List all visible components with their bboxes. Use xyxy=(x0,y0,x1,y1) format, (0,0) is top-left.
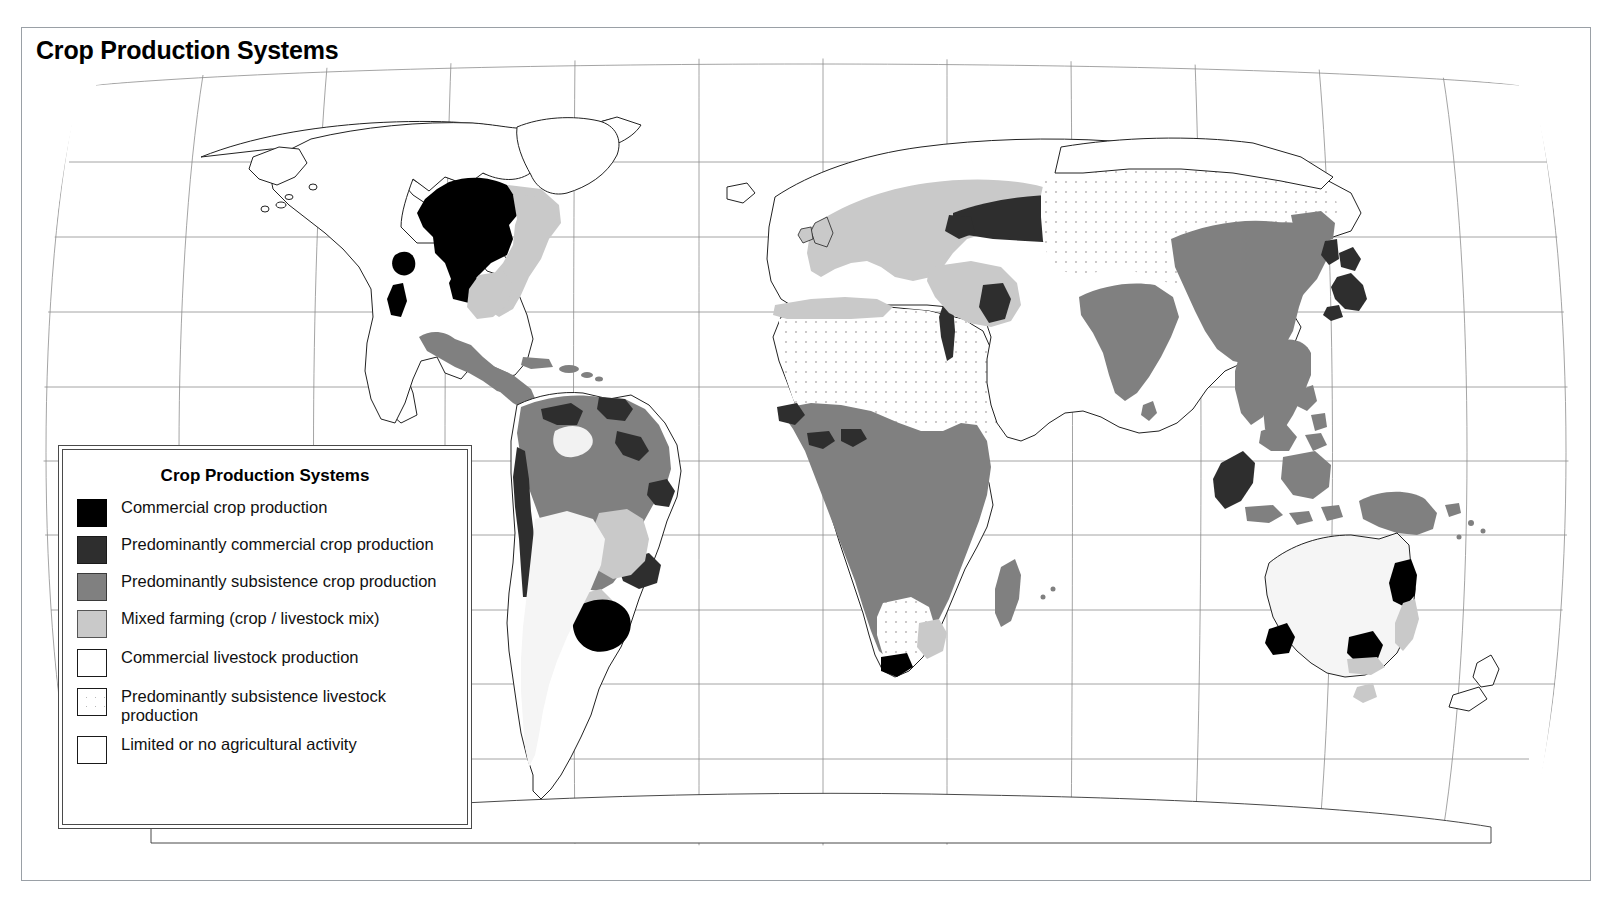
legend-item-commercial-crop[interactable]: Commercial crop production xyxy=(77,498,453,527)
legend-label: Predominantly subsistence livestock prod… xyxy=(121,687,451,725)
legend-item-commercial-livestock[interactable]: Commercial livestock production xyxy=(77,648,453,677)
legend-item-mixed-farming[interactable]: Mixed farming (crop / livestock mix) xyxy=(77,609,453,638)
region-australia xyxy=(1265,533,1415,677)
legend-label: Mixed farming (crop / livestock mix) xyxy=(121,609,380,628)
region-greenland xyxy=(517,118,619,194)
region-japan-honshu xyxy=(1331,273,1367,311)
region-new-zealand-south xyxy=(1449,687,1487,711)
legend-item-predominantly-subsistence-livestock[interactable]: Predominantly subsistence livestock prod… xyxy=(77,687,453,725)
map-legend-inner: Crop Production Systems Commercial crop … xyxy=(62,449,468,825)
region-sumatra-commercial xyxy=(1213,451,1255,509)
legend-label: Commercial crop production xyxy=(121,498,327,517)
legend-item-limited-or-no-agriculture[interactable]: Limited or no agricultural activity xyxy=(77,735,453,764)
region-tasmania xyxy=(1353,683,1377,703)
map-page: Crop Production Systems Crop Production … xyxy=(0,0,1617,904)
legend-swatch-white xyxy=(77,649,107,677)
region-indian-ocean-islands xyxy=(1041,587,1056,600)
legend-swatch-dark-gray xyxy=(77,536,107,564)
region-california-valley xyxy=(392,252,415,276)
legend-swatch-black xyxy=(77,499,107,527)
region-cape-commercial xyxy=(881,653,913,677)
region-new-zealand xyxy=(1473,655,1499,687)
legend-label: Predominantly subsistence crop productio… xyxy=(121,572,437,591)
legend-item-predominantly-commercial-crop[interactable]: Predominantly commercial crop production xyxy=(77,535,453,564)
legend-swatch-white-2 xyxy=(77,736,107,764)
region-japan-commercial xyxy=(1339,247,1361,271)
region-new-guinea xyxy=(1359,492,1437,535)
legend-swatch-mid-gray xyxy=(77,573,107,601)
legend-label: Predominantly commercial crop production xyxy=(121,535,434,554)
region-iceland xyxy=(727,183,755,203)
legend-label: Limited or no agricultural activity xyxy=(121,735,357,754)
region-caribbean xyxy=(521,357,603,382)
region-pacific-islands xyxy=(1445,503,1486,540)
map-legend: Crop Production Systems Commercial crop … xyxy=(58,445,472,829)
legend-swatch-light-gray xyxy=(77,610,107,638)
region-philippines xyxy=(1295,385,1327,431)
region-japan-kyushu xyxy=(1323,305,1343,321)
legend-label: Commercial livestock production xyxy=(121,648,359,667)
region-indonesia-subsistence xyxy=(1245,423,1343,525)
page-title: Crop Production Systems xyxy=(36,36,338,65)
region-madagascar xyxy=(995,559,1021,627)
legend-title: Crop Production Systems xyxy=(77,466,453,486)
legend-item-predominantly-subsistence-crop[interactable]: Predominantly subsistence crop productio… xyxy=(77,572,453,601)
legend-swatch-stipple xyxy=(77,688,107,716)
